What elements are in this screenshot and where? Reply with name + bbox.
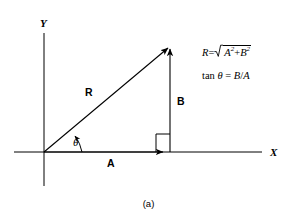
vertical-component-label: B <box>177 95 185 107</box>
radicand: A2+B2 <box>223 45 251 58</box>
tangent-formula: tan θ = B/A <box>202 71 297 82</box>
radicand-exp-b: 2 <box>247 45 251 53</box>
tangent-equals: = <box>225 70 231 81</box>
radical-icon <box>214 44 223 57</box>
horizontal-component-label: A <box>107 157 115 169</box>
theta-label: θ <box>73 136 79 148</box>
tangent-denominator: A <box>243 70 249 81</box>
square-root-group: A2+B2 <box>214 44 251 58</box>
right-angle-marker <box>156 134 170 152</box>
magnitude-formula: R=A2+B2 <box>202 44 297 58</box>
tangent-theta: θ <box>217 70 222 81</box>
diagram-canvas: Y X R A B θ <box>0 0 297 223</box>
resultant-label: R <box>85 86 93 98</box>
resultant-vector-R <box>44 48 168 152</box>
x-axis-label: X <box>269 146 278 158</box>
tangent-fn: tan <box>202 70 215 81</box>
formula-block: R=A2+B2 tan θ = B/A <box>202 44 297 82</box>
vector-decomposition-figure: Y X R A B θ R=A2+B2 tan θ = B/A (a) <box>0 0 297 223</box>
y-axis-label: Y <box>40 17 48 29</box>
figure-caption: (a) <box>0 198 297 209</box>
